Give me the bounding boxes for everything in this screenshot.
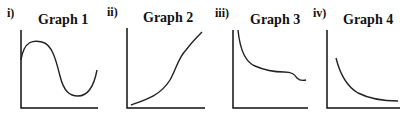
graph-plot	[300, 0, 404, 116]
curve	[21, 41, 97, 96]
axes	[327, 30, 400, 108]
axes	[233, 30, 308, 108]
graph-plot	[200, 0, 310, 116]
curve	[238, 30, 306, 80]
graph-panel-3: iii) Graph 3	[200, 0, 310, 116]
graph-panel-1: i) Graph 1	[0, 0, 104, 116]
graph-panel-4: iv) Graph 4	[300, 0, 404, 116]
graph-plot	[0, 0, 104, 116]
graph-plot	[100, 0, 210, 116]
curve	[336, 58, 398, 101]
curve	[131, 32, 202, 105]
graph-panel-2: ii) Graph 2	[100, 0, 210, 116]
axes	[127, 28, 205, 108]
